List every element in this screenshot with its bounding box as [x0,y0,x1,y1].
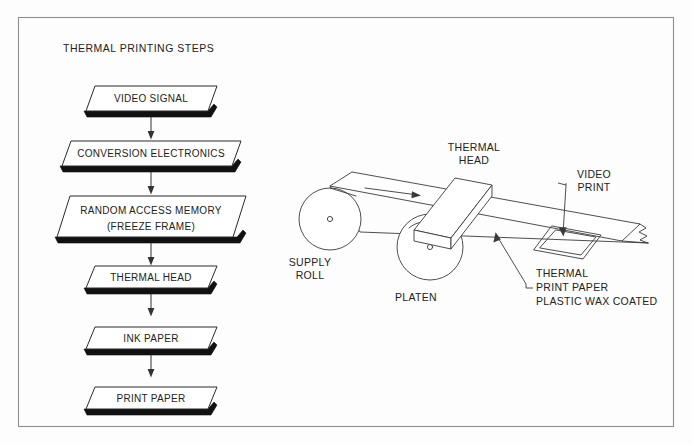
flow-node-label-line2: (FREEZE FRAME) [107,221,195,232]
label-supply-roll-line2: ROLL [296,269,325,281]
flow-node-label: PRINT PAPER [116,393,185,404]
flow-node-label: CONVERSION ELECTRONICS [77,148,225,159]
label-thermal-print-paper-line2: PRINT PAPER [536,281,608,293]
thermal-printing-diagram: THERMAL PRINTING STEPS VIDEO SIGNAL CONV… [0,0,692,445]
flow-node-label: THERMAL HEAD [110,272,192,283]
flow-node-ink-paper: INK PAPER [84,327,217,355]
flow-node-thermal-head: THERMAL HEAD [84,266,217,294]
label-supply-roll-line1: SUPPLY [289,256,331,268]
label-thermal-head-line2: HEAD [459,154,489,166]
figure-title: THERMAL PRINTING STEPS [63,42,214,54]
label-thermal-head-line1: THERMAL [448,141,500,153]
label-video-print-line1: VIDEO [577,168,611,180]
flow-node-video-signal: VIDEO SIGNAL [84,86,217,117]
label-platen: PLATEN [395,291,437,303]
flow-node-label: RANDOM ACCESS MEMORY [80,205,221,216]
figure-canvas: THERMAL PRINTING STEPS VIDEO SIGNAL CONV… [0,0,692,445]
flow-node-conversion-electronics: CONVERSION ELECTRONICS [60,141,241,172]
flow-node-label: VIDEO SIGNAL [114,93,188,104]
supply-roll-body [299,188,361,250]
flow-node-print-paper: PRINT PAPER [84,387,217,415]
label-thermal-print-paper-line1: THERMAL [536,267,588,279]
label-video-print-line2: PRINT [578,181,611,193]
flow-node-random-access-memory: RANDOM ACCESS MEMORY (FREEZE FRAME) [55,196,246,243]
flow-node-label: INK PAPER [123,333,178,344]
supply-roll [299,188,361,250]
label-thermal-print-paper-line3: PLASTIC WAX COATED [536,295,658,307]
